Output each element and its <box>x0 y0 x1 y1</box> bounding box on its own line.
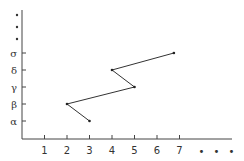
x-tick-label: 3 <box>86 145 92 156</box>
data-point <box>66 103 69 106</box>
x-tick-label: 5 <box>131 145 137 156</box>
x-tick-label: 4 <box>109 145 115 156</box>
y-continuation-dot <box>16 38 18 40</box>
y-tick-label: β <box>11 99 17 110</box>
x-tick-label: 1 <box>41 145 47 156</box>
data-markers <box>66 52 175 123</box>
data-point <box>88 120 91 123</box>
data-point <box>173 52 176 55</box>
series-line <box>67 53 174 121</box>
y-tick-label: α <box>10 116 17 127</box>
y-ticks: αβγδσ <box>10 48 26 127</box>
y-tick-label: δ <box>11 65 17 76</box>
x-tick-label: 7 <box>176 145 182 156</box>
x-continuation-dots: • • • <box>198 146 237 157</box>
x-ticks: 1234567 <box>41 135 182 156</box>
y-continuation-dot <box>16 14 18 16</box>
y-continuation-dots <box>16 14 18 40</box>
line-chart: αβγδσ 1234567 • • • <box>0 0 244 161</box>
y-continuation-dot <box>16 26 18 28</box>
x-tick-label: 2 <box>64 145 70 156</box>
data-point <box>111 69 114 72</box>
y-tick-label: σ <box>10 48 17 59</box>
chart-axes <box>22 10 232 139</box>
x-tick-label: 6 <box>154 145 160 156</box>
data-point <box>133 86 136 89</box>
y-tick-label: γ <box>11 82 17 93</box>
